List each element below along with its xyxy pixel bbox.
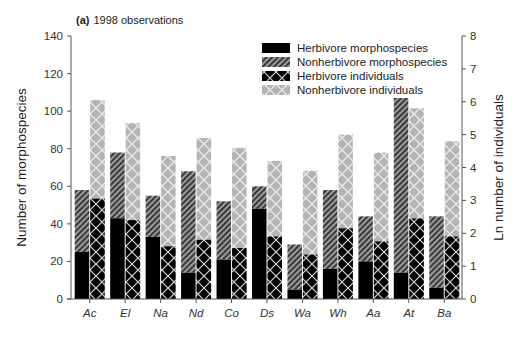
legend-swatch: [262, 71, 290, 81]
y-axis-title: Number of morphospecies: [14, 88, 29, 247]
legend-swatch: [262, 43, 290, 53]
x-tick-label: Nd: [189, 307, 204, 319]
chart: (a)1998 observations AcElNaNdCoDsWaWhAaA…: [0, 0, 519, 341]
legend-label: Nonherbivore morphospecies: [297, 56, 447, 68]
bar-nonherbivore-morphospecies: [394, 98, 409, 273]
x-tick-label: Ds: [260, 307, 274, 319]
y2-tick-label: 6: [470, 96, 476, 108]
legend-label: Herbivore morphospecies: [297, 42, 428, 54]
bar-nonherbivore-morphospecies: [146, 196, 161, 237]
bar-herbivore-morphospecies: [75, 252, 90, 299]
bar-herbivore-individuals: [268, 237, 283, 299]
x-tick-label: Wh: [329, 307, 346, 319]
bar-herbivore-morphospecies: [217, 260, 232, 299]
y2-tick-label: 8: [470, 30, 476, 42]
chart-title: (a)1998 observations: [76, 14, 184, 26]
x-tick-label: El: [120, 307, 131, 319]
svg-text:(a)1998 observations: (a)1998 observations: [76, 14, 184, 26]
bar-herbivore-individuals: [303, 255, 318, 299]
bar-herbivore-morphospecies: [358, 261, 373, 299]
x-tick-label: Na: [153, 307, 168, 319]
legend-item: Nonherbivore individuals: [262, 84, 423, 96]
bar-herbivore-individuals: [374, 241, 389, 299]
title-prefix: (a): [76, 14, 90, 26]
y2-tick-label: 3: [470, 194, 476, 206]
bar-group-Nd: [181, 138, 211, 299]
y-tick-label: 0: [57, 293, 63, 305]
bar-nonherbivore-morphospecies: [358, 216, 373, 261]
legend-item: Nonherbivore morphospecies: [262, 56, 447, 68]
bar-group-Co: [217, 148, 247, 299]
y2-tick-label: 7: [470, 63, 476, 75]
bar-herbivore-individuals: [126, 220, 141, 299]
y-tick-label: 20: [50, 255, 63, 267]
y2-tick-label: 5: [470, 129, 476, 141]
bar-herbivore-morphospecies: [252, 209, 267, 299]
y-tick-label: 80: [50, 143, 63, 155]
bar-group-Ds: [252, 161, 282, 299]
bar-nonherbivore-morphospecies: [110, 152, 125, 218]
bar-group-Wh: [323, 135, 353, 299]
bar-group-El: [110, 123, 140, 299]
legend-swatch: [262, 57, 290, 67]
title-text: 1998 observations: [93, 14, 183, 26]
x-tick-label: Aa: [365, 307, 380, 319]
bar-nonherbivore-morphospecies: [323, 190, 338, 269]
bar-nonherbivore-morphospecies: [287, 245, 302, 290]
y-tick-label: 140: [44, 30, 63, 42]
bar-group-Wa: [287, 171, 317, 299]
x-tick-label: Co: [224, 307, 239, 319]
bar-herbivore-morphospecies: [146, 237, 161, 299]
bar-herbivore-morphospecies: [323, 269, 338, 299]
y-tick-label: 100: [44, 105, 63, 117]
bar-herbivore-individuals: [232, 248, 247, 299]
legend-label: Herbivore individuals: [297, 70, 404, 82]
bar-herbivore-individuals: [90, 199, 105, 299]
y2-tick-label: 1: [470, 260, 476, 272]
legend-item: Herbivore morphospecies: [262, 42, 428, 54]
bar-group-Aa: [358, 153, 388, 299]
legend: Herbivore morphospeciesNonherbivore morp…: [262, 42, 447, 96]
bar-herbivore-morphospecies: [181, 273, 196, 299]
bar-nonherbivore-morphospecies: [429, 216, 444, 287]
bar-herbivore-morphospecies: [429, 288, 444, 299]
legend-item: Herbivore individuals: [262, 70, 404, 82]
y2-tick-label: 4: [470, 162, 477, 174]
bars: [75, 98, 460, 299]
y2-tick-label: 2: [470, 227, 476, 239]
legend-label: Nonherbivore individuals: [297, 84, 423, 96]
bar-herbivore-individuals: [409, 218, 424, 299]
bar-herbivore-morphospecies: [287, 290, 302, 299]
bar-nonherbivore-morphospecies: [252, 186, 267, 209]
bar-group-Na: [146, 156, 176, 299]
bar-herbivore-morphospecies: [394, 273, 409, 299]
bar-herbivore-individuals: [161, 246, 176, 299]
y-tick-label: 120: [44, 68, 63, 80]
bar-nonherbivore-morphospecies: [181, 171, 196, 272]
bar-group-At: [394, 98, 424, 299]
y-tick-label: 40: [50, 218, 63, 230]
bar-herbivore-individuals: [338, 228, 353, 299]
x-tick-label: Ba: [437, 307, 451, 319]
x-tick-label: At: [402, 307, 415, 319]
bar-herbivore-individuals: [445, 237, 460, 299]
bar-nonherbivore-morphospecies: [75, 190, 90, 252]
bar-herbivore-morphospecies: [110, 218, 125, 299]
bar-herbivore-individuals: [197, 240, 212, 299]
x-tick-label: Wa: [294, 307, 311, 319]
legend-swatch: [262, 85, 290, 95]
y2-axis-title: Ln number of individuals: [491, 94, 506, 241]
y2-tick-label: 0: [470, 293, 476, 305]
x-tick-label: Ac: [82, 307, 97, 319]
bar-group-Ba: [429, 141, 459, 299]
bar-nonherbivore-morphospecies: [217, 201, 232, 259]
bar-group-Ac: [75, 100, 105, 299]
y-tick-label: 60: [50, 180, 63, 192]
